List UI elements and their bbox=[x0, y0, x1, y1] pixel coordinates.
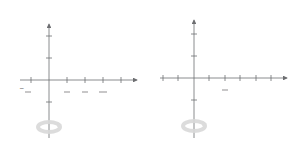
panel-i: − bbox=[19, 24, 137, 138]
svg-text:−: − bbox=[19, 84, 24, 93]
rotate-around-axis-icon bbox=[38, 122, 62, 132]
panel-ii bbox=[160, 20, 287, 138]
figure: − bbox=[0, 0, 299, 143]
x-tick-label-neg-pi-4: − bbox=[19, 84, 31, 93]
rotate-around-axis-icon bbox=[183, 121, 207, 131]
